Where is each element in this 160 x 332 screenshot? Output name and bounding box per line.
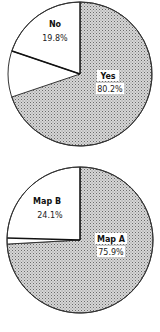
pie-chart-yes-no: No 19.8% Yes 80.2% — [0, 0, 160, 166]
label-yes: Yes — [99, 72, 115, 81]
label-map-a: Map A — [97, 235, 126, 244]
label-map-b: Map B — [33, 197, 61, 206]
pct-map-a: 75.9% — [98, 248, 124, 257]
pct-no: 19.8% — [42, 34, 68, 43]
pct-map-b: 24.1% — [37, 211, 63, 220]
pie-chart-map-a-map-b: Map B 24.1% Map A 75.9% — [0, 166, 160, 332]
label-no: No — [49, 20, 62, 29]
pct-yes: 80.2% — [97, 85, 123, 94]
